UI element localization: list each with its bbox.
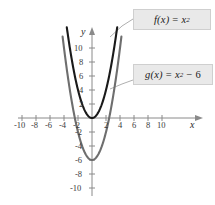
x-tick-label--4: -4 — [59, 120, 66, 130]
callout-g-tail: − 6 — [187, 69, 201, 80]
y-tick-label--2: -2 — [75, 127, 82, 137]
callout-g-function: g(x) — [145, 69, 163, 80]
x-tick-label--8: -8 — [31, 120, 38, 130]
y-tick-label-4: 4 — [79, 85, 83, 95]
x-tick-label-8: 8 — [146, 120, 150, 130]
y-axis-label: y — [81, 26, 85, 37]
callout-label-g: g(x) = x2 − 6 — [133, 64, 213, 85]
graph-figure: -10 -8 -6 -4 -2 2 4 6 8 10 10 8 6 4 2 -2… — [0, 0, 215, 205]
y-tick-label--10: -10 — [70, 183, 81, 193]
y-tick-label--6: -6 — [75, 155, 82, 165]
x-tick-label-6: 6 — [132, 120, 136, 130]
y-tick-label-6: 6 — [79, 71, 83, 81]
y-axis — [89, 27, 95, 196]
x-tick-label-2: 2 — [104, 120, 108, 130]
x-axis-label: x — [190, 119, 194, 130]
y-tick-label--4: -4 — [75, 141, 82, 151]
y-tick-label-2: 2 — [79, 99, 83, 109]
plot-canvas — [0, 0, 215, 205]
y-tick-label-10: 10 — [74, 43, 83, 53]
callout-f-equals: = — [172, 14, 178, 25]
leader-line-f — [110, 19, 133, 37]
x-tick-label--6: -6 — [45, 120, 52, 130]
callout-label-f: f(x) = x2 — [133, 9, 211, 30]
x-tick-label--10: -10 — [14, 120, 25, 130]
x-tick-label-4: 4 — [118, 120, 122, 130]
callout-f-function: f(x) — [154, 14, 169, 25]
x-tick-label-10: 10 — [157, 120, 166, 130]
y-tick-label--8: -8 — [75, 169, 82, 179]
callout-g-equals: = — [166, 69, 172, 80]
y-tick-label-8: 8 — [79, 57, 83, 67]
